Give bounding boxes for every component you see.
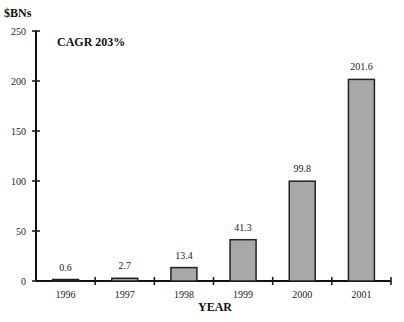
x-tick-label: 1999 xyxy=(233,289,253,300)
y-tick-label: 200 xyxy=(11,76,26,87)
bars: 0.619962.7199713.4199841.3199999.8200020… xyxy=(53,61,375,300)
data-label: 201.6 xyxy=(350,61,373,72)
data-label: 41.3 xyxy=(234,222,252,233)
x-axis xyxy=(36,277,391,285)
data-label: 0.6 xyxy=(59,262,72,273)
data-label: 99.8 xyxy=(294,163,312,174)
x-tick-label: 1997 xyxy=(115,289,135,300)
y-tick-label: 0 xyxy=(21,276,26,287)
y-tick-label: 150 xyxy=(11,126,26,137)
y-tick-label: 100 xyxy=(11,176,26,187)
bar-chart: 050100150200250 0.619962.7199713.4199841… xyxy=(0,0,404,322)
y-tick-label: 250 xyxy=(11,26,26,37)
x-tick-label: 2001 xyxy=(351,289,371,300)
x-tick-label: 1996 xyxy=(56,289,76,300)
bar-1998 xyxy=(171,268,197,281)
bar-1997 xyxy=(112,278,138,281)
data-label: 13.4 xyxy=(175,250,193,261)
x-tick-label: 1998 xyxy=(174,289,194,300)
data-label: 2.7 xyxy=(119,260,132,271)
y-tick-label: 50 xyxy=(16,226,26,237)
y-axis: 050100150200250 xyxy=(11,26,40,287)
x-tick-label: 2000 xyxy=(292,289,312,300)
bar-1996 xyxy=(53,280,79,282)
bar-2000 xyxy=(289,181,315,281)
bar-2001 xyxy=(348,79,374,281)
bar-1999 xyxy=(230,240,256,281)
